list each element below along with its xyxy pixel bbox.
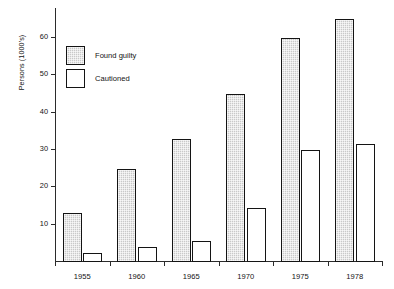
x-axis-label-1978: 1978 <box>346 272 363 281</box>
x-axis-label-1960: 1960 <box>128 272 145 281</box>
x-tick-right-edge <box>382 261 383 266</box>
bar-1975-found-guilty <box>281 38 300 262</box>
y-tick-50: 50 <box>51 74 56 75</box>
y-tick-label-10: 10 <box>40 219 48 228</box>
y-tick-60: 60 <box>51 37 56 38</box>
y-tick-20: 20 <box>51 186 56 187</box>
y-tick-label-20: 20 <box>40 181 48 190</box>
y-tick-40: 40 <box>51 112 56 113</box>
legend-label-found-guilty: Found guilty <box>95 51 136 60</box>
chart-legend: Found guilty Cautioned <box>66 44 136 90</box>
bar-1955-cautioned <box>83 253 102 262</box>
bar-1978-found-guilty <box>335 19 354 262</box>
legend-item-cautioned: Cautioned <box>66 67 136 90</box>
x-tick-left-1955 <box>55 261 56 266</box>
y-tick-label-30: 30 <box>40 144 48 153</box>
legend-swatch-cautioned <box>66 69 85 88</box>
bar-1978-cautioned <box>356 144 375 262</box>
bar-1965-cautioned <box>192 241 211 262</box>
x-axis-label-1975: 1975 <box>292 272 309 281</box>
bar-1970-cautioned <box>247 208 266 262</box>
y-tick-label-60: 60 <box>40 32 48 41</box>
x-axis-label-1970: 1970 <box>237 272 254 281</box>
bar-1960-found-guilty <box>117 169 136 262</box>
legend-swatch-found-guilty <box>66 46 85 65</box>
y-tick-30: 30 <box>51 149 56 150</box>
x-tick-left-1965 <box>164 261 165 266</box>
bar-1965-found-guilty <box>172 139 191 262</box>
y-axis-title: Persons (1000's) <box>17 0 26 128</box>
bar-1960-cautioned <box>138 247 157 262</box>
x-tick-left-1960 <box>110 261 111 266</box>
y-tick-label-50: 50 <box>40 69 48 78</box>
legend-item-found-guilty: Found guilty <box>66 44 136 67</box>
bar-1955-found-guilty <box>63 213 82 262</box>
x-tick-left-1975 <box>273 261 274 266</box>
bar-chart: Persons (1000's) 102030405060 1955196019… <box>0 0 394 289</box>
x-axis-label-1965: 1965 <box>183 272 200 281</box>
x-tick-left-1978 <box>328 261 329 266</box>
bar-1975-cautioned <box>301 150 320 262</box>
y-tick-10: 10 <box>51 224 56 225</box>
bar-1970-found-guilty <box>226 94 245 262</box>
x-tick-left-1970 <box>219 261 220 266</box>
x-axis-label-1955: 1955 <box>74 272 91 281</box>
y-tick-label-40: 40 <box>40 107 48 116</box>
legend-label-cautioned: Cautioned <box>95 74 130 83</box>
